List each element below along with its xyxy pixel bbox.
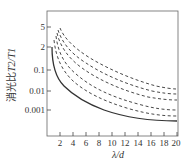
chart-canvas: 5 2 0.1 0.01 0.001 2 4 6 8 10 12 14 16 1… [0,0,191,162]
y-tick-label: 2 [41,42,46,52]
x-axis [60,132,177,136]
y-axis-label-container: 消光比T2/T1 [2,40,18,110]
plot-frame [47,11,178,136]
x-tick-label: 4 [71,138,76,148]
x-tick-label: 16 [147,138,157,148]
y-tick-label: 0.01 [29,86,45,96]
series-dashed-3 [57,33,177,100]
x-tick-label: 2 [58,138,63,148]
x-tick-label: 20 [172,138,182,148]
x-tick-label: 6 [84,138,89,148]
series-dashed-5 [60,28,177,89]
y-tick-label: 5 [41,22,46,32]
y-tick-label: 0.001 [25,105,45,115]
x-tick-label: 12 [121,138,130,148]
x-tick-label: 8 [97,138,102,148]
x-tick-label: 18 [160,138,170,148]
x-axis-label: λ/d [111,149,125,160]
x-tick-label: 14 [134,138,144,148]
x-tick-label: 10 [108,138,118,148]
series-dashed-1 [54,40,177,116]
y-tick-label: 0.1 [34,65,45,75]
series-dashed-4 [58,30,177,94]
y-axis [47,27,51,110]
y-axis-label: 消光比T2/T1 [3,48,18,102]
y-axis-label-prefix: 消光比 [6,72,17,102]
y-axis-label-variable: T2/T1 [6,48,17,72]
